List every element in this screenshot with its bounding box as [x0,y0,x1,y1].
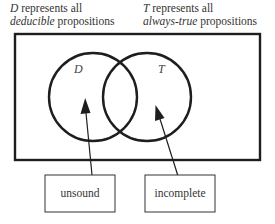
label-box-unsound: unsound [45,175,115,212]
set-d-label: D [73,62,83,76]
arrow-unsound [81,98,93,175]
arrowhead-icon [155,105,165,121]
venn-diagram: D T unsound incomplete [0,0,275,224]
label-incomplete: incomplete [154,187,205,200]
arrowhead-icon [81,98,91,114]
set-t-circle [103,53,191,141]
set-t-label: T [158,62,166,76]
label-unsound: unsound [61,187,100,199]
set-d-circle [49,53,137,141]
label-box-incomplete: incomplete [145,175,215,212]
